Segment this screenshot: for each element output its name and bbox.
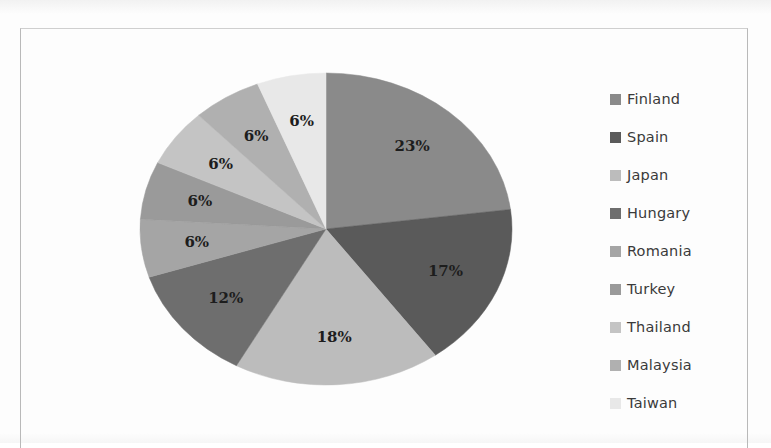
legend-item-label: Thailand [627,319,691,335]
legend-item-label: Malaysia [627,357,692,373]
legend-item[interactable]: Malaysia [610,346,740,384]
legend-swatch-icon [610,398,621,409]
pie-slice-value-label: 18% [317,328,352,346]
legend-item-label: Finland [627,91,680,107]
legend-item[interactable]: Turkey [610,270,740,308]
pie-slice-value-label: 6% [244,127,269,145]
pie-slice-value-label: 12% [208,289,243,307]
legend-item[interactable]: Taiwan [610,384,740,422]
legend-item[interactable]: Spain [610,118,740,156]
legend-swatch-icon [610,170,621,181]
legend-item-label: Spain [627,129,669,145]
legend-swatch-icon [610,322,621,333]
pie-slice-value-label: 17% [428,262,463,280]
legend-item-label: Taiwan [627,395,678,411]
pie-slice-value-label: 6% [208,155,233,173]
legend-item-label: Turkey [627,281,675,297]
pie-chart: 23%17%18%12%6%6%6%6%6% [130,60,530,400]
legend-swatch-icon [610,208,621,219]
chart-legend: FinlandSpainJapanHungaryRomaniaTurkeyTha… [610,80,740,422]
pie-slice-value-label: 23% [395,137,430,155]
legend-item[interactable]: Hungary [610,194,740,232]
legend-swatch-icon [610,94,621,105]
legend-swatch-icon [610,132,621,143]
pie-slice-value-label: 6% [188,192,213,210]
legend-item[interactable]: Romania [610,232,740,270]
pie-slice-value-label: 6% [184,233,209,251]
legend-swatch-icon [610,246,621,257]
legend-item-label: Hungary [627,205,690,221]
legend-swatch-icon [610,360,621,371]
pie-slice-value-label: 6% [289,112,314,130]
legend-item[interactable]: Finland [610,80,740,118]
legend-swatch-icon [610,284,621,295]
legend-item-label: Japan [627,167,668,183]
legend-item[interactable]: Japan [610,156,740,194]
legend-item[interactable]: Thailand [610,308,740,346]
legend-item-label: Romania [627,243,692,259]
